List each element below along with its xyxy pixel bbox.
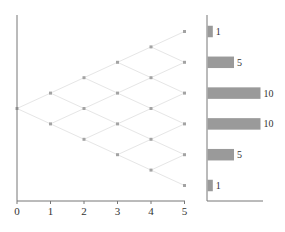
- lattice-point: [150, 76, 153, 79]
- x-axis-ticks: 012345: [14, 201, 188, 217]
- lattice-point: [150, 138, 153, 141]
- lattice-edge: [84, 93, 118, 108]
- lattice-edge: [118, 78, 152, 93]
- lattice-edge: [84, 139, 118, 154]
- lattice-edge: [51, 93, 85, 108]
- lattice-edge: [118, 155, 152, 170]
- binomial-lattice-chart: 012345 15101051: [0, 0, 285, 232]
- lattice-point: [150, 45, 153, 48]
- lattice-point: [83, 138, 86, 141]
- bar: [208, 87, 261, 99]
- lattice-edge: [51, 109, 85, 124]
- lattice-edge: [151, 78, 185, 93]
- lattice-edge: [151, 124, 185, 139]
- lattice-edge: [151, 109, 185, 124]
- lattice-point: [49, 92, 52, 95]
- x-tick-label: 2: [81, 205, 87, 217]
- lattice-point: [116, 153, 119, 156]
- x-tick-label: 1: [48, 205, 54, 217]
- lattice-edge: [151, 93, 185, 108]
- lattice-edge: [84, 109, 118, 124]
- lattice-edge: [151, 139, 185, 154]
- lattice-point: [183, 30, 186, 33]
- bar-value-label: 10: [264, 88, 274, 99]
- lattice-point: [183, 184, 186, 187]
- bar-series: 15101051: [208, 26, 274, 192]
- lattice-points: [16, 30, 187, 187]
- lattice-point: [83, 76, 86, 79]
- bar: [208, 26, 213, 38]
- lattice-point: [116, 61, 119, 64]
- lattice-edge: [17, 109, 51, 124]
- lattice-edge: [51, 124, 85, 139]
- lattice-point: [183, 92, 186, 95]
- bar-value-label: 1: [216, 180, 221, 191]
- lattice-point: [116, 92, 119, 95]
- bar-value-label: 1: [216, 26, 221, 37]
- bar: [208, 118, 261, 129]
- lattice-point: [150, 169, 153, 172]
- lattice-point: [83, 107, 86, 110]
- lattice-edge: [118, 93, 152, 108]
- bar-value-label: 10: [264, 118, 274, 129]
- lattice-edge: [84, 62, 118, 77]
- lattice-edge: [118, 139, 152, 154]
- lattice-point: [49, 122, 52, 125]
- bar: [208, 57, 235, 69]
- lattice-edge: [151, 155, 185, 170]
- x-tick-label: 0: [14, 205, 20, 217]
- bar-value-label: 5: [237, 149, 242, 160]
- lattice-point: [183, 122, 186, 125]
- bar: [208, 149, 235, 161]
- x-tick-label: 5: [182, 205, 188, 217]
- lattice-edge: [151, 170, 185, 185]
- lattice-edge: [17, 93, 51, 108]
- x-tick-label: 3: [115, 205, 121, 217]
- lattice-edge: [84, 78, 118, 93]
- bar: [208, 180, 213, 192]
- lattice-edge: [118, 124, 152, 139]
- lattice-edge: [151, 32, 185, 47]
- lattice-edge: [118, 47, 152, 62]
- lattice-edge: [84, 124, 118, 139]
- lattice-edge: [118, 109, 152, 124]
- lattice-edge: [118, 62, 152, 77]
- lattice-point: [183, 61, 186, 64]
- lattice-lines: [17, 32, 185, 186]
- lattice-point: [150, 107, 153, 110]
- lattice-edge: [151, 47, 185, 62]
- lattice-point: [116, 122, 119, 125]
- x-tick-label: 4: [148, 205, 154, 217]
- bar-value-label: 5: [237, 57, 242, 68]
- lattice-edge: [51, 78, 85, 93]
- lattice-edge: [151, 62, 185, 77]
- lattice-point: [183, 153, 186, 156]
